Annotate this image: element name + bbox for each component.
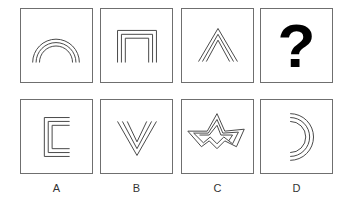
question-mark-icon: ? [261,9,332,82]
puzzle-cell-1 [20,8,93,83]
option-b[interactable] [100,99,173,174]
triple-v-icon [101,100,172,173]
option-a-label: A [20,182,93,194]
option-c-label: C [181,182,254,194]
triple-crown-star-icon [182,100,253,173]
triple-arch-icon [21,9,92,82]
puzzle-cell-2 [100,8,173,83]
triple-caret-icon [182,9,253,82]
triple-bracket-left-icon [21,100,92,173]
option-c[interactable] [181,99,254,174]
triple-bracket-up-icon [101,9,172,82]
option-b-label: B [100,182,173,194]
option-a[interactable] [20,99,93,174]
triple-arc-right-icon [261,100,332,173]
puzzle-cell-question: ? [260,8,333,83]
option-d[interactable] [260,99,333,174]
option-d-label: D [260,182,333,194]
puzzle-cell-3 [181,8,254,83]
